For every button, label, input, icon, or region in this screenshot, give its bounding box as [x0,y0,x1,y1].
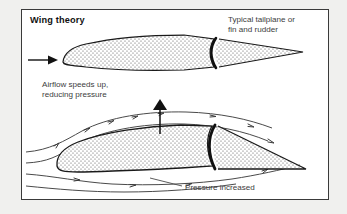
fin-section [28,30,308,78]
airflow-label-line2: reducing pressure [42,90,108,100]
fin-aft-control-surface [212,34,308,74]
page-title: Wing theory [30,15,85,25]
tailplane-label: Typical tailplane or fin and rudder [228,15,295,35]
tailplane-label-line1: Typical tailplane or [228,15,295,25]
wing-forward-body [50,120,220,176]
fin-forward-body [55,30,225,78]
figure-page: Wing theory Typical tailplane or fin and… [0,0,347,214]
pressure-label: Pressure increased [185,183,255,193]
tailplane-label-line2: fin and rudder [228,25,295,35]
airflow-label-line1: Airflow speeds up, [42,80,108,90]
airflow-label: Airflow speeds up, reducing pressure [42,80,108,100]
wing-aft-control-surface [210,122,310,172]
wing-section [26,99,310,192]
incoming-airflow-arrow [28,56,58,65]
